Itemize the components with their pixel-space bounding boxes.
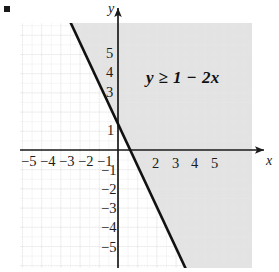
- y-tick-label-3: 3: [106, 85, 113, 100]
- inequality-annotation: y ≥ 1 − 2x: [146, 68, 220, 88]
- x-tick-label-4: 4: [191, 156, 198, 171]
- y-tick-label--1: −1: [101, 163, 116, 178]
- y-tick-label-5: 5: [106, 46, 113, 61]
- x-tick-label--3: −3: [59, 154, 74, 169]
- x-tick-label--2: −2: [78, 154, 93, 169]
- x-tick-label--4: −4: [40, 154, 55, 169]
- x-tick-label--5: −5: [21, 154, 36, 169]
- y-tick-label-1: 1: [107, 123, 114, 138]
- inequality-graph-figure: −5 −4 −3 −2 −1 2 3 4 5 5 4 3 1 −1 −2 −3 …: [0, 0, 279, 272]
- y-axis-label: y: [108, 2, 114, 16]
- y-tick-label--3: −3: [101, 201, 116, 216]
- shaded-region-grid-overlay: [20, 23, 252, 268]
- y-tick-label--4: −4: [101, 220, 116, 235]
- y-tick-label--2: −2: [101, 182, 116, 197]
- y-tick-label-4: 4: [106, 65, 113, 80]
- x-tick-label-3: 3: [172, 156, 179, 171]
- x-tick-label-2: 2: [152, 156, 159, 171]
- coordinate-plane: [0, 0, 279, 272]
- shaded-solution-region: [20, 23, 252, 268]
- bullet-marker: [4, 6, 10, 12]
- y-tick-label--5: −5: [101, 240, 116, 255]
- x-tick-label-5: 5: [211, 156, 218, 171]
- x-axis-label: x: [266, 154, 272, 168]
